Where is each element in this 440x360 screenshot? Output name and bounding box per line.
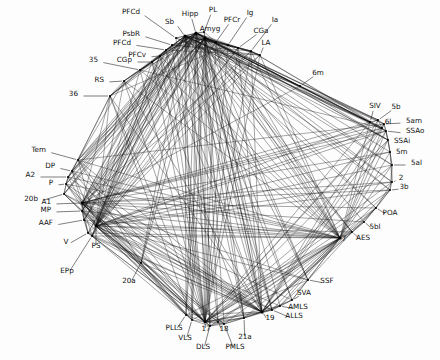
network-node-21a[interactable] xyxy=(243,317,245,319)
label-leader-line xyxy=(178,26,184,34)
node-label-amls: AMLS xyxy=(288,302,308,311)
node-label-sb: Sb xyxy=(165,17,175,26)
network-node-rs[interactable] xyxy=(123,80,125,82)
network-node-pfcv[interactable] xyxy=(159,55,161,57)
network-edge xyxy=(196,33,376,208)
network-node-psbr[interactable] xyxy=(171,44,173,46)
node-label-21a: 21a xyxy=(238,332,252,341)
network-node-5bl[interactable] xyxy=(363,221,365,223)
network-node-a2[interactable] xyxy=(67,176,69,178)
network-node-amls[interactable] xyxy=(279,305,281,307)
network-node-19[interactable] xyxy=(261,311,264,314)
node-label-5bl: 5bl xyxy=(369,222,380,231)
node-label-20b: 20b xyxy=(24,194,38,203)
network-node-hipp[interactable] xyxy=(195,32,198,35)
node-label-5am: 5am xyxy=(406,116,422,125)
node-label-a2: A2 xyxy=(26,170,36,179)
node-label-cga: CGa xyxy=(254,26,269,35)
network-edge xyxy=(110,96,192,320)
label-leader-line xyxy=(57,211,81,212)
network-node-3b[interactable] xyxy=(389,189,391,191)
node-label-35: 35 xyxy=(89,55,98,64)
node-label-epp: EPp xyxy=(60,266,74,275)
node-label-plls: PLLS xyxy=(166,323,183,332)
network-node-mp[interactable] xyxy=(81,210,83,212)
node-label-ssf: SSF xyxy=(320,276,333,285)
network-node-2[interactable] xyxy=(391,181,393,183)
node-label-ssai: SSAi xyxy=(394,136,410,145)
network-node-sva[interactable] xyxy=(291,299,293,301)
network-node-cgp[interactable] xyxy=(151,61,153,63)
label-leader-line xyxy=(110,81,123,82)
node-label-3b: 3b xyxy=(399,182,409,191)
network-node-ig[interactable] xyxy=(227,44,229,46)
network-node-ps[interactable] xyxy=(95,225,98,228)
network-node-pfcr[interactable] xyxy=(215,41,217,43)
node-label-pl: PL xyxy=(209,5,217,14)
network-node-20b[interactable] xyxy=(63,193,65,195)
network-node-6m[interactable] xyxy=(299,85,301,87)
network-node-siv[interactable] xyxy=(369,121,371,123)
node-label-ssao: SSAo xyxy=(406,126,424,135)
node-label-ps: PS xyxy=(92,241,101,250)
network-node-dp[interactable] xyxy=(71,170,73,172)
network-node-la[interactable] xyxy=(259,54,261,56)
network-edge xyxy=(185,36,392,165)
network-node-5al[interactable] xyxy=(391,164,393,166)
node-label-pmls: PMLS xyxy=(225,342,245,351)
node-label-7: 7 xyxy=(342,234,347,243)
network-node-sb[interactable] xyxy=(184,35,187,38)
label-leader-line xyxy=(392,189,399,190)
node-label-aaf: AAF xyxy=(39,218,53,227)
node-label-20a: 20a xyxy=(122,276,136,285)
network-node-plls[interactable] xyxy=(185,314,187,316)
network-node-vls[interactable] xyxy=(191,319,193,321)
network-node-35[interactable] xyxy=(139,69,141,71)
network-node-aaf[interactable] xyxy=(83,219,85,221)
node-label-17: 17 xyxy=(201,324,210,333)
label-leader-line xyxy=(60,169,70,171)
edges-layer xyxy=(64,32,392,326)
network-node-5m[interactable] xyxy=(389,151,391,153)
network-edge xyxy=(124,81,340,238)
network-node-ssai[interactable] xyxy=(387,139,389,141)
network-node-v[interactable] xyxy=(87,232,89,234)
network-figure: PFCdSbHippPLAmygPFCrIgCGaIaLAPsbRPFCdPFC… xyxy=(0,0,440,360)
node-label-v: V xyxy=(64,237,69,246)
node-label-dp: DP xyxy=(45,161,56,170)
network-node-p[interactable] xyxy=(65,183,67,185)
network-node-aes[interactable] xyxy=(351,231,353,233)
network-node-tem[interactable] xyxy=(77,159,79,161)
network-node-18[interactable] xyxy=(217,321,219,323)
network-node-pfcd[interactable] xyxy=(165,49,167,51)
node-label-hipp: Hipp xyxy=(182,9,199,18)
label-leader-line xyxy=(388,131,401,133)
network-node-ssao[interactable] xyxy=(385,130,387,132)
network-node-alls[interactable] xyxy=(271,309,273,311)
network-edge xyxy=(340,122,370,238)
network-node-epp[interactable] xyxy=(91,235,93,237)
node-label-rs: RS xyxy=(94,75,104,84)
network-edge xyxy=(262,222,364,312)
node-label-tem: Tem xyxy=(30,145,46,154)
label-leader-line xyxy=(192,19,196,31)
network-node-ssf[interactable] xyxy=(307,279,309,281)
network-node-pfcd[interactable] xyxy=(175,37,177,39)
network-node-ia[interactable] xyxy=(250,50,252,52)
network-edge xyxy=(196,33,392,182)
node-label-alls: ALLS xyxy=(285,311,303,320)
network-edge xyxy=(84,33,196,220)
network-edge xyxy=(376,182,392,208)
label-leader-line xyxy=(145,37,170,45)
network-node-20a[interactable] xyxy=(140,262,142,264)
network-node-a1[interactable] xyxy=(81,202,84,205)
network-node-amyg[interactable] xyxy=(204,37,207,40)
network-node-5b[interactable] xyxy=(377,119,379,121)
network-node-poa[interactable] xyxy=(375,207,377,209)
network-node-36[interactable] xyxy=(109,95,111,97)
node-label-ia: Ia xyxy=(272,15,279,24)
label-leader-line xyxy=(57,203,81,204)
network-node-6l[interactable] xyxy=(381,127,383,129)
network-node-cga[interactable] xyxy=(237,47,239,49)
node-label-vls: VLS xyxy=(178,333,192,342)
